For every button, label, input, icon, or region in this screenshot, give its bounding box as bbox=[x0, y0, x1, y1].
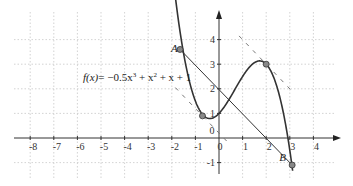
x-tick-label: -4 bbox=[123, 141, 131, 152]
y-tick-label: 3 bbox=[210, 59, 215, 70]
y-tick-label: 4 bbox=[210, 34, 215, 45]
point-label-b: B bbox=[279, 151, 286, 163]
function-plot: -8-7-6-5-4-3-2-101234-112340 AB f(x)= −0… bbox=[0, 0, 353, 186]
point-b bbox=[289, 162, 295, 168]
x-axis-arrow-icon bbox=[333, 135, 341, 141]
grid bbox=[14, 12, 335, 178]
point-local-max bbox=[263, 61, 269, 67]
x-tick-label: -6 bbox=[76, 141, 84, 152]
x-tick-label: -5 bbox=[100, 141, 108, 152]
x-tick-label: 4 bbox=[314, 141, 319, 152]
y-axis-arrow-icon bbox=[216, 10, 222, 19]
x-tick-label: -1 bbox=[194, 141, 202, 152]
x-tick-label: -7 bbox=[53, 141, 61, 152]
x-tick-label: 0 bbox=[218, 141, 223, 152]
origin-label: 0 bbox=[210, 125, 215, 136]
point-label-a: A bbox=[170, 42, 178, 54]
cubic-curve bbox=[175, 0, 292, 171]
x-tick-label: -8 bbox=[29, 141, 37, 152]
point-a bbox=[177, 46, 183, 52]
y-tick-label: -1 bbox=[207, 157, 215, 168]
x-tick-label: -3 bbox=[147, 141, 155, 152]
point-local-min bbox=[199, 113, 205, 119]
function-label: f(x)= −0.5x3 + x2 + x + 1 bbox=[83, 71, 191, 84]
x-tick-label: 1 bbox=[243, 141, 248, 152]
x-tick-label: 3 bbox=[290, 141, 295, 152]
x-tick-label: -2 bbox=[171, 141, 179, 152]
